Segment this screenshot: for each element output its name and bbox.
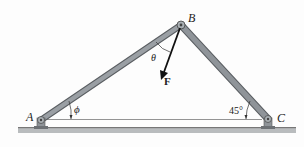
member-ab [41,25,181,120]
label-a: A [26,111,33,123]
label-theta: θ [151,53,156,63]
pin-b [177,21,185,29]
label-b: B [188,12,195,24]
label-angle-c: 45° [229,106,243,116]
label-force: F [164,76,171,87]
truss-diagram: A B C θ F ϕ 45° [0,0,304,147]
label-phi: ϕ [74,104,80,115]
diagram-graphic [0,0,304,147]
label-c: C [277,112,285,124]
member-bc [181,25,268,119]
